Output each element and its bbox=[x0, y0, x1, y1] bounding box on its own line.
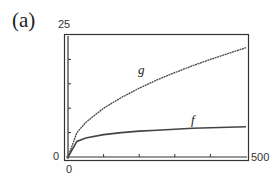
series-f-line bbox=[68, 127, 246, 157]
series-g-line bbox=[68, 48, 246, 157]
plot-area bbox=[0, 0, 270, 182]
plot-frame bbox=[65, 35, 249, 161]
series-g-label: g bbox=[138, 62, 145, 78]
series-f-label: f bbox=[191, 112, 195, 128]
